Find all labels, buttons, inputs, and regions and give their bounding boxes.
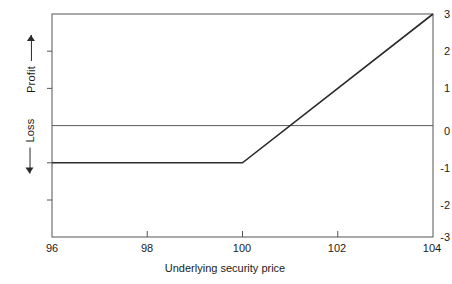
payoff-line bbox=[52, 14, 433, 163]
y-tick-marks bbox=[47, 51, 52, 200]
x-tick-marks bbox=[147, 231, 338, 237]
